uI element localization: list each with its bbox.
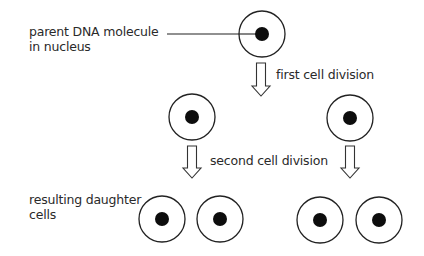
daughter-cell-4 bbox=[356, 197, 402, 243]
down-arrow-icon bbox=[252, 63, 270, 96]
daughter-cell-2 bbox=[197, 196, 243, 242]
daughter-label-line-1: resulting daughter bbox=[29, 192, 141, 207]
nucleus-icon bbox=[372, 213, 386, 227]
generation-2-cell-right bbox=[327, 95, 373, 141]
generation-2-cell-left bbox=[169, 94, 215, 140]
parent-cell bbox=[239, 11, 285, 57]
second-division-label: second cell division bbox=[210, 153, 328, 168]
nucleus-icon bbox=[185, 110, 199, 124]
nucleus-icon bbox=[213, 212, 227, 226]
cell-division-diagram: parent DNA molecule in nucleus first cel… bbox=[0, 0, 424, 256]
nucleus-icon bbox=[255, 27, 269, 41]
first-division-label: first cell division bbox=[276, 67, 374, 82]
parent-dna-label: parent DNA molecule in nucleus bbox=[29, 24, 159, 54]
nucleus-icon bbox=[155, 212, 169, 226]
nucleus-icon bbox=[343, 111, 357, 125]
daughter-label-line-2: cells bbox=[29, 207, 141, 222]
daughter-cell-3 bbox=[297, 197, 343, 243]
daughter-cell-1 bbox=[139, 196, 185, 242]
down-arrow-icon bbox=[341, 146, 359, 178]
parent-label-line-2: in nucleus bbox=[29, 39, 159, 54]
down-arrow-icon bbox=[183, 146, 201, 178]
parent-label-line-1: parent DNA molecule bbox=[29, 24, 159, 39]
nucleus-icon bbox=[313, 213, 327, 227]
daughter-cells-label: resulting daughter cells bbox=[29, 192, 141, 222]
